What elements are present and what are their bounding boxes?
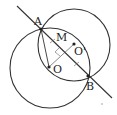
label-b: B (86, 80, 94, 93)
geometry-diagram: A B M O O' (0, 0, 117, 115)
point-o (47, 65, 50, 68)
label-m: M (56, 31, 67, 44)
right-angle-marker (55, 48, 60, 56)
stray-dot (101, 103, 103, 105)
label-a: A (33, 15, 43, 28)
label-o-prime: O' (74, 45, 86, 58)
point-b (86, 74, 89, 77)
label-o: O (53, 63, 62, 76)
line-ab (17, 6, 112, 98)
